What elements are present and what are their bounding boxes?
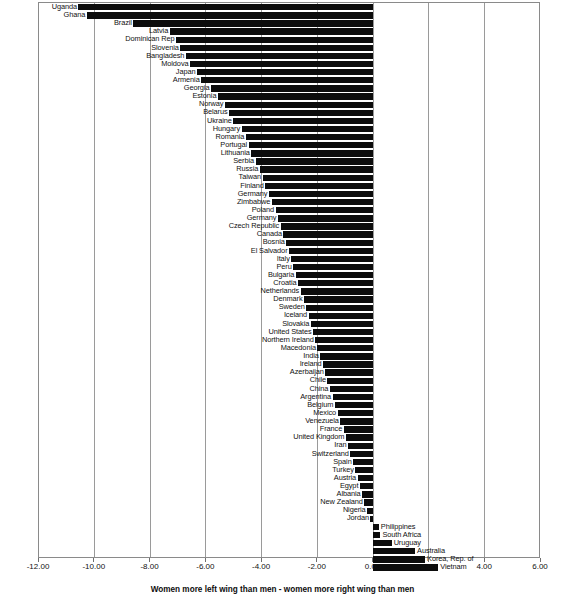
bar-row: Georgia [0,85,565,93]
bar-row: Japan [0,68,565,76]
bar-row: Macedonia [0,345,565,353]
bar [330,386,373,392]
bar-row: Turkey [0,466,565,474]
bar-row: Argentina [0,393,565,401]
bar-row: Portugal [0,142,565,150]
bar [338,410,373,416]
bar [190,61,373,67]
bar [197,69,373,75]
bar-row: Lithuania [0,150,565,158]
bar [78,4,372,10]
x-axis: -12.00-10.00-8.00-6.00-4.00-2.000.002.00… [0,558,565,574]
bar-row: Uruguay [0,539,565,547]
bar-row: Spain [0,458,565,466]
bar-row: Austria [0,474,565,482]
bar [225,102,373,108]
bar [323,361,373,367]
bar-row: France [0,426,565,434]
bar [269,191,373,197]
bar [283,231,372,237]
x-axis-tick-label: 2.00 [421,562,437,571]
bar [286,240,372,246]
x-axis-title: Women more left wing than men - women mo… [0,585,565,594]
bar [233,118,372,124]
bar-category-label: Ghana [64,10,86,19]
bar [306,305,372,311]
bar [360,483,373,489]
bar [373,540,392,546]
bar-row: Philippines [0,523,565,531]
bar-row: Australia [0,548,565,556]
bar-category-label: Brazil [114,18,132,27]
bar-row: Iran [0,442,565,450]
bar [251,150,372,156]
bar-row: Latvia [0,28,565,36]
bar-row: Belarus [0,109,565,117]
bar [186,53,373,59]
bar [289,248,373,254]
bar [346,434,373,440]
bar [315,337,372,343]
bar [309,313,373,319]
bar [317,345,372,351]
bar [370,516,372,522]
bar-row: Sweden [0,304,565,312]
bar [344,426,373,432]
bar [133,20,372,26]
bar [301,288,373,294]
bar [242,126,373,132]
bar [272,199,373,205]
bar [311,321,373,327]
bar [276,207,373,213]
bar [170,28,373,34]
bar [176,37,373,43]
bar [348,443,373,449]
x-axis-tick-label: -4.00 [252,562,270,571]
bar [291,256,372,262]
bar-row: Venezuela [0,418,565,426]
bar-row: Germany [0,190,565,198]
bar-row: Taiwan [0,174,565,182]
bar-row: Ukraine [0,117,565,125]
bar-row: Mexico [0,410,565,418]
bar-row: Germany [0,215,565,223]
bar [362,491,373,497]
bar-row: Albania [0,491,565,499]
bar-row: Hungary [0,125,565,133]
bar [298,280,373,286]
bar-row: Russia [0,166,565,174]
x-axis-tick-label: -12.00 [27,562,50,571]
bar [256,158,373,164]
bar-row: Brazil [0,20,565,28]
bar-row: China [0,385,565,393]
bar [218,93,373,99]
bar-row: Nigeria [0,507,565,515]
bar-row: Bangladesh [0,52,565,60]
bar-row: Zimbabwe [0,198,565,206]
bar-row: Czech Republic [0,223,565,231]
bar [304,296,373,302]
bar-row: Norway [0,101,565,109]
bar-row: Dominican Rep [0,36,565,44]
bar-row: India [0,353,565,361]
bar [293,264,372,270]
bar [350,451,372,457]
bar-row: Finland [0,182,565,190]
bar [333,394,373,400]
bar-row: Moldova [0,60,565,68]
bar-row: South Africa [0,531,565,539]
bar-row: Ireland [0,361,565,369]
x-axis-tick-label: -10.00 [82,562,105,571]
bar [211,85,373,91]
bar [265,183,372,189]
bar [355,467,372,473]
bar-row: Switzerland [0,450,565,458]
x-axis-tick-label: 6.00 [532,562,548,571]
bar [201,77,373,83]
horizontal-bar-chart: UgandaGhanaBrazilLatviaDominican RepSlov… [0,0,565,605]
bar-rows-container: UgandaGhanaBrazilLatviaDominican RepSlov… [0,0,565,558]
bar [180,45,372,51]
x-axis-tick-label: 0.00 [365,562,381,571]
bar [320,353,372,359]
bar-row: Slovenia [0,44,565,52]
